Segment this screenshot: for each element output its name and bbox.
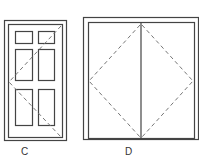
door-c-outer-frame	[5, 21, 67, 141]
door-c-panel	[39, 50, 55, 81]
door-diagrams	[0, 0, 199, 165]
door-d-right-swing-indicator	[142, 25, 193, 137]
door-c-label: C	[21, 146, 28, 157]
door-c-swing-indicator	[9, 26, 61, 137]
door-c	[5, 21, 67, 141]
door-c-panel	[16, 50, 33, 81]
door-c-panel	[16, 32, 33, 44]
door-d-label: D	[125, 146, 132, 157]
door-c-panel	[39, 90, 55, 126]
door-d	[84, 18, 199, 140]
door-d-left-swing-indicator	[89, 25, 140, 137]
door-c-panel	[16, 90, 33, 126]
